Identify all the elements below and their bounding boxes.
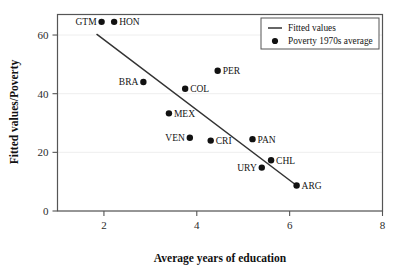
data-point-label: HON (119, 17, 140, 27)
data-point (187, 134, 193, 140)
x-tick-label: 8 (380, 219, 386, 231)
data-point (268, 157, 274, 163)
data-point-label: CHL (276, 156, 295, 166)
data-point (98, 19, 104, 25)
data-point-label: PER (223, 66, 241, 76)
chart-canvas: 2468 0204060 GTMHONBRAPERCOLMEXVENCRIPAN… (0, 0, 414, 272)
data-point (182, 86, 188, 92)
y-tick-label: 0 (43, 205, 49, 217)
x-tick-label: 2 (101, 219, 107, 231)
data-point-label: CRI (216, 136, 232, 146)
data-point (111, 19, 117, 25)
legend-dot-swatch (272, 38, 278, 44)
data-point-label: BRA (119, 77, 139, 87)
data-point-label: URY (237, 163, 257, 173)
data-point (208, 137, 214, 143)
data-point (166, 110, 172, 116)
y-tick-label: 40 (38, 88, 50, 100)
data-point (214, 68, 220, 74)
data-point (249, 136, 255, 142)
chart-legend: Fitted valuesPoverty 1970s average (261, 18, 379, 49)
data-point-label: GTM (75, 17, 97, 27)
data-point (140, 79, 146, 85)
y-tick-label: 60 (38, 29, 50, 41)
scatter-plot-figure: 2468 0204060 GTMHONBRAPERCOLMEXVENCRIPAN… (0, 0, 414, 272)
data-point-label: VEN (165, 133, 185, 143)
y-axis-title: Fitted values/Poverty (8, 60, 21, 165)
data-point-label: ARG (302, 181, 322, 191)
data-point-label: PAN (258, 135, 276, 145)
data-point-label: COL (190, 84, 209, 94)
data-point (293, 182, 299, 188)
data-point-label: MEX (174, 109, 195, 119)
legend-label: Fitted values (288, 23, 336, 33)
y-tick-label: 20 (38, 146, 50, 158)
legend-label: Poverty 1970s average (288, 36, 373, 46)
data-point (259, 164, 265, 170)
x-tick-label: 4 (194, 219, 200, 231)
x-axis-title: Average years of education (154, 252, 287, 265)
x-tick-label: 6 (287, 219, 293, 231)
